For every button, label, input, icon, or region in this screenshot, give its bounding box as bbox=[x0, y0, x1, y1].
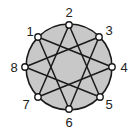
node-label-3: 3 bbox=[105, 23, 112, 38]
node-label-4: 4 bbox=[120, 60, 127, 75]
node-8 bbox=[22, 64, 28, 70]
node-label-6: 6 bbox=[65, 115, 72, 130]
node-label-1: 1 bbox=[26, 24, 33, 39]
node-label-7: 7 bbox=[22, 97, 29, 112]
node-6 bbox=[66, 106, 72, 112]
node-3 bbox=[96, 34, 102, 40]
node-2 bbox=[66, 22, 72, 28]
node-label-2: 2 bbox=[65, 5, 72, 20]
node-label-5: 5 bbox=[105, 97, 112, 112]
node-7 bbox=[35, 94, 41, 100]
node-4 bbox=[109, 64, 115, 70]
node-5 bbox=[97, 94, 103, 100]
node-label-8: 8 bbox=[10, 60, 17, 75]
node-1 bbox=[35, 34, 41, 40]
octagram-diagram: 12345678 bbox=[0, 0, 139, 138]
